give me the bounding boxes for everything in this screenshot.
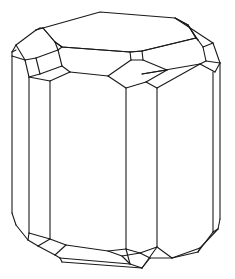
crystal-diagram: [0, 0, 235, 279]
